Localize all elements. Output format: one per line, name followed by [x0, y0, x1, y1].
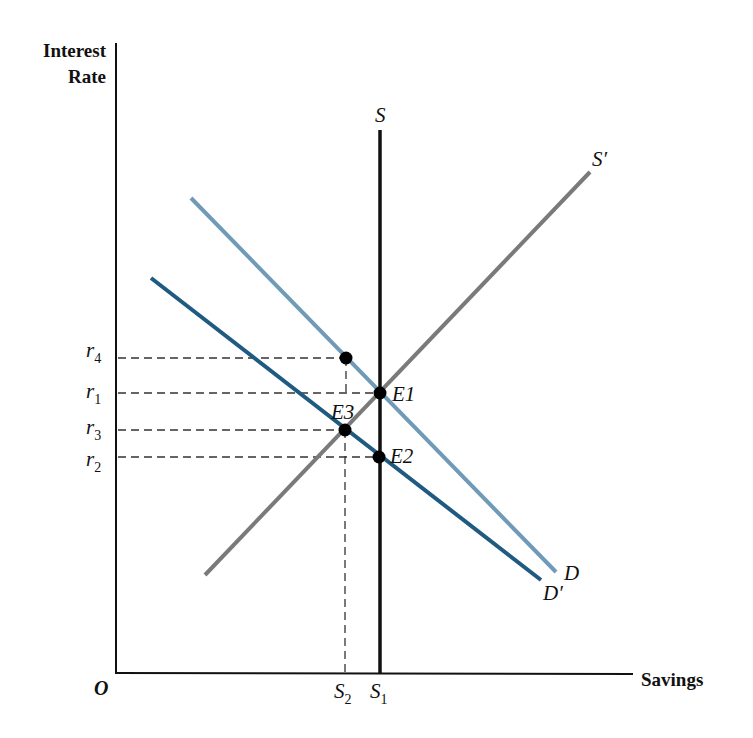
label-E2: E2 [389, 444, 414, 468]
point-E3 [339, 424, 352, 437]
origin-label: O [94, 677, 108, 699]
point-E2 [373, 451, 386, 464]
savings-interest-chart: Interest Rate Savings O S S′ D D′ E1 E2 … [0, 0, 753, 738]
label-E3: E3 [330, 400, 354, 424]
tick-r4: r4 [86, 338, 101, 366]
curve-D [191, 198, 556, 572]
label-E1: E1 [391, 382, 415, 406]
tick-r1: r1 [86, 379, 101, 407]
tick-r2: r2 [86, 447, 101, 475]
point-r4 [340, 352, 353, 365]
x-axis [115, 673, 633, 674]
x-axis-title: Savings [641, 669, 703, 690]
tick-S2: S2 [334, 679, 352, 707]
curve-S-prime [205, 172, 590, 575]
tick-r3: r3 [86, 415, 101, 443]
tick-S1: S1 [370, 679, 388, 707]
label-D: D [563, 561, 579, 585]
label-S-prime: S′ [592, 147, 608, 171]
y-axis-title-line1: Interest [43, 40, 107, 61]
point-E1 [374, 387, 387, 400]
y-axis-title-line2: Rate [68, 66, 106, 87]
label-D-prime: D′ [542, 581, 563, 605]
label-S: S [375, 103, 386, 127]
